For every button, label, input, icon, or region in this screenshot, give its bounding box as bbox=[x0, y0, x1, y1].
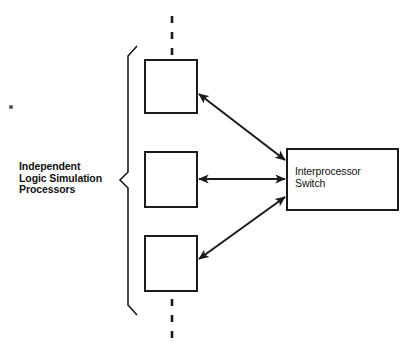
connector-top-processor-to-switch bbox=[199, 94, 285, 160]
processor-box-bottom[interactable] bbox=[145, 236, 197, 291]
connector-bottom-processor-to-switch bbox=[199, 197, 285, 259]
scan-speck-artifact bbox=[9, 105, 13, 109]
processor-box-top[interactable] bbox=[145, 60, 197, 113]
interprocessor-switch-label: Interprocessor Switch bbox=[295, 166, 395, 189]
diagram-root: Independent Logic Simulation Processors … bbox=[0, 0, 417, 354]
grouping-brace bbox=[120, 46, 137, 315]
processor-group-label: Independent Logic Simulation Processors bbox=[19, 161, 119, 196]
processor-box-middle[interactable] bbox=[145, 152, 197, 207]
